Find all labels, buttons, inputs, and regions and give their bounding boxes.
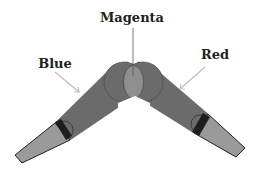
red-label: Red bbox=[201, 47, 229, 62]
blue-arrow-icon bbox=[55, 72, 79, 92]
red-arrow-icon bbox=[180, 67, 205, 89]
magenta-label: Magenta bbox=[100, 10, 165, 25]
boomerang-diagram: Magenta Blue Red bbox=[0, 0, 260, 174]
blue-label: Blue bbox=[38, 56, 72, 71]
magenta-overlap bbox=[124, 66, 144, 99]
